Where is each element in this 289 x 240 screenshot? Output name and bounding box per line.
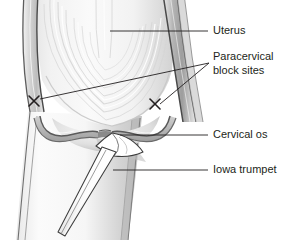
label-paracervical-block-sites-line1: Paracervical (213, 50, 274, 62)
paracervical-block-figure: Uterus Paracervical block sites Cervical… (0, 0, 289, 240)
label-paracervical-block-sites-line2: block sites (213, 64, 265, 76)
label-uterus: Uterus (213, 24, 246, 36)
uterine-body (23, 0, 203, 126)
label-cervical-os: Cervical os (213, 128, 268, 140)
label-iowa-trumpet: Iowa trumpet (213, 163, 277, 175)
